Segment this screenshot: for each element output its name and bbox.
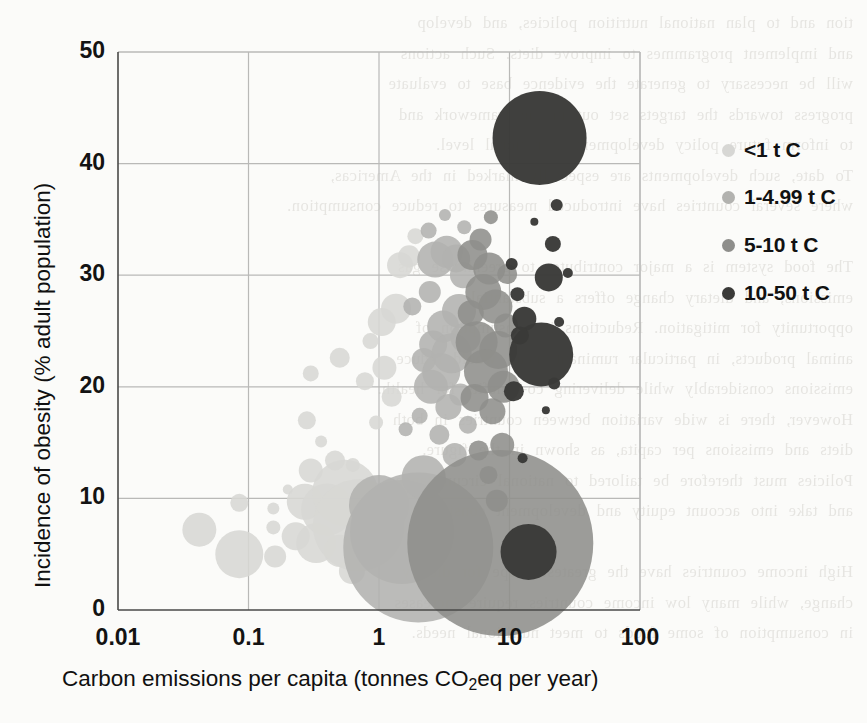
bubble-datapoint [266, 520, 280, 534]
legend-marker-icon [722, 191, 735, 204]
bubble-datapoint [548, 377, 560, 389]
bubble-datapoint [530, 218, 538, 226]
x-tick-label: 1 [319, 624, 439, 651]
bubble-datapoint [283, 484, 293, 494]
bubble-datapoint [551, 199, 563, 211]
bubble-datapoint [459, 416, 477, 434]
bubble-datapoint [512, 307, 536, 331]
bubble-datapoint [407, 450, 593, 636]
bubble-datapoint [215, 530, 263, 578]
bubble-datapoint [399, 422, 413, 436]
bubble-datapoint [356, 372, 374, 390]
legend-marker-icon [722, 239, 735, 252]
bubble-datapoint [230, 494, 248, 512]
bubble-datapoint [554, 317, 564, 327]
legend-item-1[interactable]: <1 t C [722, 138, 801, 162]
scanned-page: tion and to plan national nutrition poli… [0, 0, 867, 723]
bubble-datapoint [542, 406, 550, 414]
bubble-datapoint [429, 425, 449, 445]
legend-label: 1-4.99 t C [744, 185, 835, 209]
x-tick-label: 0.01 [58, 624, 178, 651]
bubble-datapoint [535, 263, 563, 291]
bubble-datapoint [382, 387, 402, 407]
bubble-datapoint [490, 433, 514, 457]
bubble-datapoint [470, 228, 492, 250]
bubble-datapoint [506, 258, 518, 270]
bubble-datapoint [330, 348, 350, 368]
bubble-chart [0, 0, 867, 723]
bubble-datapoint [419, 281, 441, 303]
bubble-datapoint [398, 245, 420, 267]
bubble-datapoint [484, 210, 498, 224]
x-tick-label: 0.1 [189, 624, 309, 651]
legend-item-2[interactable]: 1-4.99 t C [722, 185, 835, 209]
bubble-datapoint [458, 300, 484, 326]
y-tick-label: 30 [79, 260, 105, 287]
bubble-datapoint [264, 545, 286, 567]
legend-marker-icon [722, 287, 735, 300]
legend-label: <1 t C [744, 138, 801, 162]
bubble-datapoint [501, 524, 557, 580]
bubble-datapoint [493, 91, 587, 185]
y-tick-label: 10 [79, 483, 105, 510]
bubble-datapoint [439, 209, 451, 221]
bubble-datapoint [563, 268, 573, 278]
legend-label: 5-10 t C [744, 233, 818, 257]
bubble-datapoint [545, 236, 561, 252]
co2-subscript: 2 [468, 676, 477, 693]
bubble-datapoint [479, 466, 497, 484]
bubble-datapoint [510, 287, 524, 301]
y-axis-title: Incidence of obesity (% adult population… [30, 183, 56, 588]
bubble-datapoint [511, 326, 529, 344]
bubble-datapoint [182, 513, 216, 547]
bubble-datapoint [369, 416, 383, 430]
bubble-datapoint [372, 356, 396, 380]
bubble-datapoint [518, 453, 528, 463]
chart-bubbles [182, 91, 593, 636]
x-tick-label: 10 [450, 624, 570, 651]
y-tick-label: 0 [92, 595, 105, 622]
bubble-datapoint [412, 408, 428, 424]
bubble-datapoint [403, 297, 421, 315]
x-axis-title: Carbon emissions per capita (tonnes CO2e… [62, 666, 599, 694]
legend-label: 10-50 t C [744, 281, 830, 305]
bubble-datapoint [362, 333, 378, 349]
legend-marker-icon [722, 144, 735, 157]
bubble-datapoint [346, 458, 360, 472]
bubble-datapoint [504, 381, 524, 401]
legend-item-4[interactable]: 10-50 t C [722, 281, 830, 305]
bubble-datapoint [421, 223, 437, 239]
y-tick-label: 50 [79, 37, 105, 64]
y-tick-label: 20 [79, 372, 105, 399]
bubble-datapoint [303, 365, 319, 381]
bubble-datapoint [267, 502, 279, 514]
bubble-datapoint [315, 435, 327, 447]
bubble-datapoint [469, 440, 489, 460]
y-tick-label: 40 [79, 149, 105, 176]
legend-item-3[interactable]: 5-10 t C [722, 233, 818, 257]
bubble-datapoint [486, 490, 508, 512]
x-tick-label: 100 [580, 624, 700, 651]
bubble-datapoint [457, 220, 471, 234]
bubble-datapoint [298, 411, 316, 429]
